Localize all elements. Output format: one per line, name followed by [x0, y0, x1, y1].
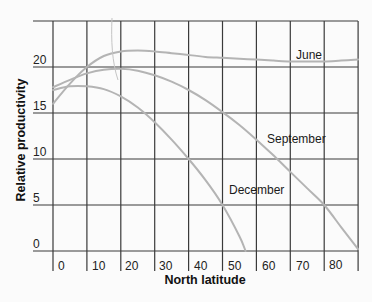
x-tick-70: 70: [296, 259, 310, 273]
curve-december: [53, 86, 246, 251]
y-tick-labels: 0 5 10 15 20: [33, 53, 47, 251]
curves: [53, 50, 358, 251]
x-tick-30: 30: [159, 259, 173, 273]
y-tick-15: 15: [33, 99, 47, 113]
x-axis-title: North latitude: [164, 273, 245, 287]
y-tick-5: 5: [33, 191, 40, 205]
y-tick-0: 0: [33, 237, 40, 251]
x-tick-40: 40: [194, 259, 208, 273]
productivity-chart: 0 5 10 15 20 0 10 20 30 40 50 60 70 80 N…: [0, 0, 372, 302]
series-label-december: December: [229, 183, 284, 197]
series-label-june: June: [296, 48, 322, 62]
series-label-september: September: [267, 132, 326, 146]
x-tick-20: 20: [125, 259, 139, 273]
y-tick-20: 20: [33, 53, 47, 67]
x-tick-labels: 0 10 20 30 40 50 60 70 80: [58, 258, 343, 273]
x-tick-0: 0: [58, 259, 65, 273]
x-tick-60: 60: [262, 259, 276, 273]
x-tick-50: 50: [228, 259, 242, 273]
y-tick-10: 10: [33, 145, 47, 159]
x-tick-80: 80: [329, 258, 343, 272]
y-axis-title: Relative productivity: [14, 78, 28, 201]
faint-artifact-curve: [112, 18, 118, 80]
x-tick-10: 10: [92, 259, 106, 273]
